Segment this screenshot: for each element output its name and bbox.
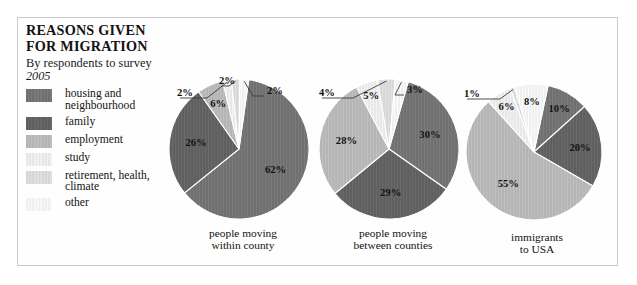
legend-swatch-housing [26,89,52,102]
page-title-line-2: FOR MIGRATION [26,39,206,55]
slice-value-label: 2% [177,87,193,98]
slice-value-label: 2% [267,85,283,96]
slice-value-label: 26% [185,137,206,148]
slice-value-label: 4% [319,87,335,98]
slice-value-label: 6% [499,101,515,112]
legend-label-other: other [65,197,89,209]
slice-value-label: 8% [524,96,540,107]
legend-swatch-study [26,153,52,166]
slice-value-label: 6% [210,98,226,109]
figure-subtitle: By respondents to survey [26,56,206,70]
slice-value-label: 20% [569,142,590,153]
slice-value-label: 3% [407,84,423,95]
pie-svg-people-moving-between-counties: 30%29%28%5%4%3% [313,74,473,224]
slice-value-label: 28% [336,135,357,146]
slice-value-label: 30% [419,129,440,140]
pie-chart-within-county: 62%26%6%2%2%2% [163,74,323,224]
migration-pie-figure: REASONS GIVEN FOR MIGRATION By responden… [0,0,637,285]
slice-value-label: 1% [464,88,480,99]
slice-value-label: 55% [498,178,519,189]
legend-label-family: family [65,116,95,128]
pie-svg-immigrants-to-usa: 10%20%55%6%1%8% [462,80,612,225]
slice-value-label: 10% [549,103,570,114]
legend-label-retirement: retirement, health, climate [65,170,150,194]
legend-label-housing: housing and neighbourhood [65,88,135,112]
slice-value-label: 62% [265,164,286,175]
pie-chart-immigrants-usa: 10%20%55%6%1%8% [462,80,622,225]
pie-caption-between-counties: people moving between counties [313,227,473,252]
legend-swatch-retirement [26,171,52,184]
slice-value-label: 2% [219,75,235,86]
pie-caption-within-county: people moving within county [163,227,323,252]
legend-swatch-other [26,198,52,211]
slice-value-label: 29% [380,187,401,198]
legend-label-employment: employment [65,134,123,146]
page-title-line-1: REASONS GIVEN [26,23,206,39]
pie-chart-between-counties: 30%29%28%5%4%3% [313,74,473,224]
pie-caption-immigrants-usa: immigrants to USA [462,231,612,256]
legend-label-study: study [65,152,90,164]
legend-swatch-employment [26,135,52,148]
legend-swatch-family [26,117,52,130]
pie-svg-people-moving-within-county: 62%26%6%2%2%2% [163,74,323,224]
